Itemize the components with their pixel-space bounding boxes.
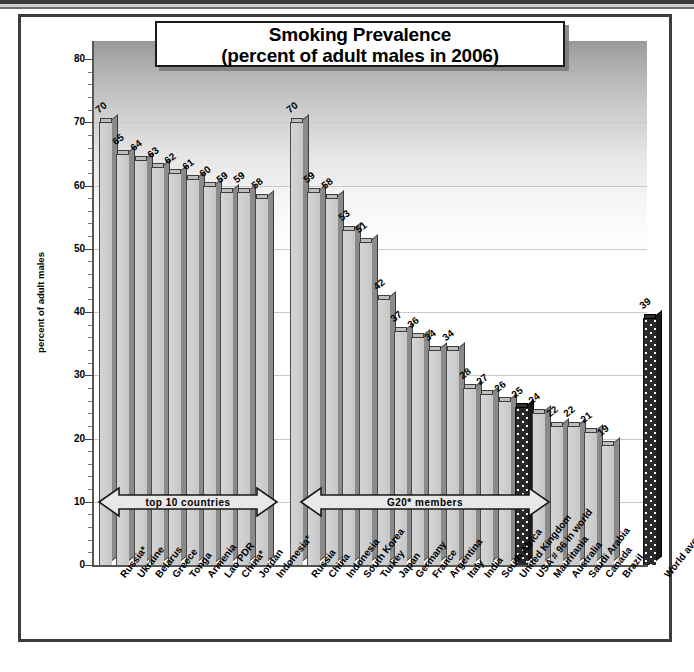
bar-top-3d	[568, 422, 580, 427]
y-tick-label-wrap: 10	[51, 496, 85, 508]
category-label: Japan	[396, 573, 405, 580]
annotation-top-10-label: top 10 countries	[145, 497, 230, 508]
y-tick-minor	[88, 514, 93, 515]
y-tick-major	[85, 186, 93, 187]
y-tick-minor	[88, 337, 93, 338]
y-tick-major	[85, 59, 93, 60]
y-tick-minor	[88, 261, 93, 262]
bar-top-3d	[378, 295, 390, 300]
category-label: South Korea	[361, 573, 370, 580]
y-tick-minor	[88, 540, 93, 541]
y-tick-label: 30	[59, 369, 85, 380]
annotation-top-10-countries: top 10 countries	[97, 485, 279, 519]
y-axis-line	[92, 41, 94, 567]
y-tick-minor	[88, 527, 93, 528]
y-tick-label: 80	[59, 53, 85, 64]
y-tick-minor	[88, 97, 93, 98]
y-tick-minor	[88, 84, 93, 85]
bar-top-3d	[169, 169, 181, 174]
category-label: Russia	[309, 573, 318, 580]
gridline	[94, 122, 647, 123]
y-tick-major	[85, 375, 93, 376]
y-tick-minor	[88, 236, 93, 237]
bar-top-3d	[117, 150, 129, 155]
chart-title-line2: (percent of adult males in 2006)	[157, 45, 563, 66]
bar	[411, 337, 424, 565]
bar	[446, 350, 459, 565]
y-tick-minor	[88, 325, 93, 326]
y-tick-minor	[88, 489, 93, 490]
y-tick-label: 40	[59, 306, 85, 317]
bar-top-3d	[360, 238, 372, 243]
category-label: Greece	[170, 573, 179, 580]
bar	[480, 394, 493, 565]
bar-top-3d	[308, 188, 320, 193]
y-tick-label: 20	[59, 433, 85, 444]
category-label: Ukraine	[135, 573, 144, 580]
category-label: China*	[239, 573, 248, 580]
y-tick-label-wrap: 50	[51, 243, 85, 255]
y-tick-minor	[88, 148, 93, 149]
y-axis-title: percent of adult males	[35, 238, 46, 368]
y-tick-label: 0	[59, 559, 85, 570]
bar-top-3d	[100, 118, 112, 123]
y-tick-label: 60	[59, 180, 85, 191]
category-label: Australia	[569, 573, 578, 580]
bar-top-3d	[256, 194, 268, 199]
category-label: Indonesia	[344, 573, 353, 580]
category-label: Turkey	[378, 573, 387, 580]
y-tick-minor	[88, 451, 93, 452]
category-label: Belarus	[153, 573, 162, 580]
y-tick-minor	[88, 476, 93, 477]
category-label: Indonesia*	[274, 573, 283, 580]
y-tick-minor	[88, 350, 93, 351]
bar	[377, 299, 390, 565]
category-label: Brazil	[620, 573, 629, 580]
category-label: Jordan	[256, 573, 265, 580]
y-tick-minor	[88, 135, 93, 136]
y-tick-minor	[88, 160, 93, 161]
chart-title: Smoking Prevalence (percent of adult mal…	[155, 21, 565, 67]
bar-top-3d	[516, 403, 528, 408]
y-tick-minor	[88, 464, 93, 465]
bar-top-3d	[429, 346, 441, 351]
category-label: China	[326, 573, 335, 580]
y-tick-label-wrap: 0	[51, 559, 85, 571]
y-tick-minor	[88, 274, 93, 275]
y-tick-minor	[88, 299, 93, 300]
bar-top-3d	[221, 188, 233, 193]
bar-top-3d	[204, 182, 216, 187]
y-tick-minor	[88, 401, 93, 402]
bar-side-3d	[656, 311, 662, 561]
bar-top-3d	[326, 194, 338, 199]
y-tick-label-wrap: 20	[51, 433, 85, 445]
y-tick-label-wrap: 70	[51, 116, 85, 128]
bar-top-3d	[135, 156, 147, 161]
y-tick-major	[85, 439, 93, 440]
bar-top-3d	[395, 327, 407, 332]
category-label: South Africa	[499, 573, 508, 580]
category-label: United Kingdom	[517, 573, 526, 580]
category-label: Russia*	[118, 573, 127, 580]
y-tick-minor	[88, 426, 93, 427]
bar-top-3d	[481, 390, 493, 395]
annotation-g20-members: G20* members	[299, 485, 551, 519]
category-label: Mauritania	[551, 573, 560, 580]
y-tick-minor	[88, 110, 93, 111]
y-tick-minor	[88, 388, 93, 389]
y-tick-minor	[88, 413, 93, 414]
y-tick-minor	[88, 363, 93, 364]
category-label: Tonga	[187, 573, 196, 580]
y-tick-minor	[88, 552, 93, 553]
bar-top-3d	[499, 397, 511, 402]
bar-top-3d	[551, 422, 563, 427]
y-tick-major	[85, 312, 93, 313]
y-tick-minor	[88, 173, 93, 174]
y-tick-label-wrap: 30	[51, 369, 85, 381]
y-tick-minor	[88, 223, 93, 224]
y-tick-major	[85, 122, 93, 123]
category-label: Italy	[465, 573, 474, 580]
category-label: Lao PDR	[222, 573, 231, 580]
y-tick-label-wrap: 80	[51, 53, 85, 65]
chart-title-line1: Smoking Prevalence	[157, 24, 563, 45]
